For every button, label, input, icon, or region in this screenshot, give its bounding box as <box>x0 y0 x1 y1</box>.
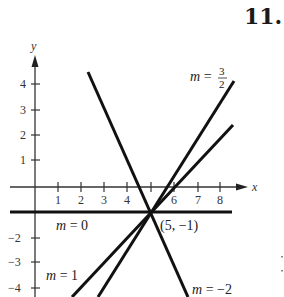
y-tick-neg3: −3 <box>8 255 21 269</box>
label-slope-0: m = 0 <box>56 218 88 233</box>
x-axis: x 1 2 3 4 6 7 8 <box>10 180 258 207</box>
lines <box>10 72 234 297</box>
y-axis: y 4 3 2 1 −2 −3 −4 <box>8 39 40 297</box>
y-tick-4: 4 <box>20 77 26 91</box>
y-tick-neg2: −2 <box>8 231 21 245</box>
svg-text:3: 3 <box>219 65 225 77</box>
fraction-3-2: 3 2 <box>218 65 227 90</box>
y-tick-1: 1 <box>20 153 26 167</box>
x-axis-arrow-icon <box>236 184 248 191</box>
x-tick-8: 8 <box>217 193 223 207</box>
y-tick-3: 3 <box>20 103 26 117</box>
x-axis-label: x <box>251 180 258 194</box>
label-slope-neg2: m = −2 <box>192 282 232 297</box>
y-axis-label: y <box>30 39 37 53</box>
y-tick-neg4: −4 <box>8 281 21 295</box>
x-tick-3: 3 <box>101 193 107 207</box>
x-tick-6: 6 <box>171 193 177 207</box>
label-slope-1: m = 1 <box>46 268 78 283</box>
x-tick-1: 1 <box>55 193 61 207</box>
line-slope-3-2 <box>98 81 234 297</box>
speck <box>281 270 283 272</box>
svg-text:2: 2 <box>219 78 225 90</box>
y-tick-2: 2 <box>20 128 26 142</box>
point-label: (5, −1) <box>160 218 199 234</box>
x-tick-4: 4 <box>124 193 130 207</box>
problem-number: 11. <box>244 3 282 29</box>
x-tick-2: 2 <box>78 193 84 207</box>
y-axis-arrow-icon <box>32 55 39 67</box>
slope-diagram: 11. y 4 3 2 1 −2 −3 −4 x 1 2 3 <box>0 0 284 297</box>
label-slope-3-2: m = <box>190 69 212 84</box>
speck <box>281 256 283 258</box>
x-tick-7: 7 <box>195 193 201 207</box>
